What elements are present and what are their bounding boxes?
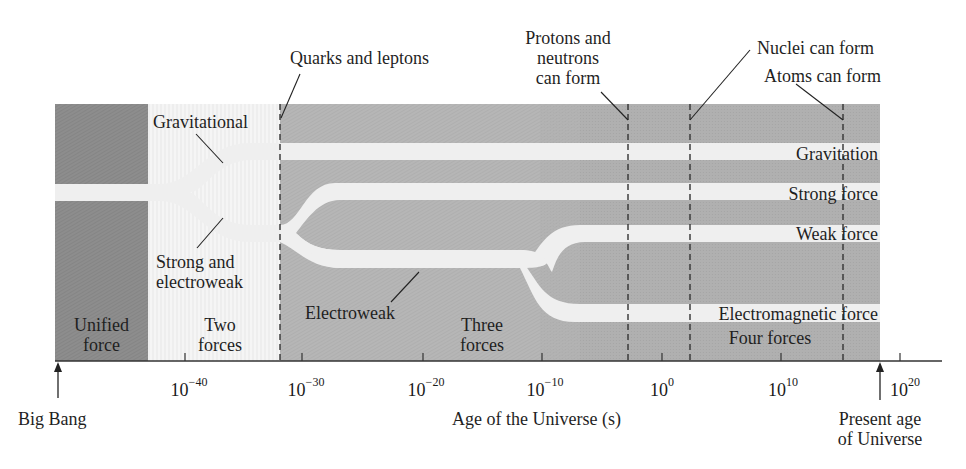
label-electroweak: Electroweak bbox=[305, 303, 395, 323]
tick-label-1e-30: 10−30 bbox=[288, 375, 325, 400]
label-strong-electroweak: Strong and electroweak bbox=[156, 252, 243, 292]
label-unified-force: Unified force bbox=[55, 315, 148, 355]
tick-label-1e-20: 10−20 bbox=[408, 375, 445, 400]
label-strong-force: Strong force bbox=[740, 184, 878, 204]
label-atoms-can-form: Atoms can form bbox=[764, 66, 881, 86]
label-quarks-leptons: Quarks and leptons bbox=[290, 48, 429, 68]
present-age-arrow-icon bbox=[876, 362, 884, 400]
label-weak-force: Weak force bbox=[740, 224, 878, 244]
big-bang-arrow-icon bbox=[54, 362, 62, 398]
label-three-forces: Three forces bbox=[432, 315, 532, 355]
label-protons-neutrons: Protons and neutrons can form bbox=[498, 28, 638, 88]
label-gravitation: Gravitation bbox=[740, 144, 878, 164]
label-electromagnetic-force: Electromagnetic force bbox=[660, 304, 878, 324]
tick-label-1e20: 1020 bbox=[890, 375, 920, 400]
tick-label-1e0: 100 bbox=[650, 375, 674, 400]
label-present-age: Present age of Universe bbox=[825, 409, 935, 449]
axis-title: Age of the Universe (s) bbox=[452, 409, 621, 429]
label-big-bang: Big Bang bbox=[18, 409, 87, 429]
label-gravitational: Gravitational bbox=[153, 112, 248, 132]
label-four-forces: Four forces bbox=[700, 328, 840, 348]
tick-label-1e-10: 10−10 bbox=[527, 375, 564, 400]
tick-label-1e-40: 10−40 bbox=[171, 375, 208, 400]
tick-label-1e10: 1010 bbox=[768, 375, 798, 400]
forces-timeline-diagram: Quarks and leptons Protons and neutrons … bbox=[0, 0, 966, 469]
label-nuclei-can-form: Nuclei can form bbox=[757, 38, 874, 58]
label-two-forces: Two forces bbox=[170, 315, 270, 355]
